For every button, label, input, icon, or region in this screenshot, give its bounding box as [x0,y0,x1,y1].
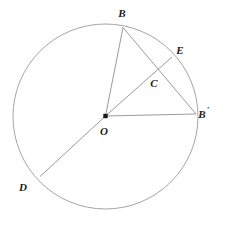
segment-BBprime [123,28,196,115]
center-point-marker [103,114,107,118]
label-point-E: E [175,44,183,56]
geometry-canvas: B E C B ′ O D [0,0,226,225]
segment-OD [40,116,106,177]
label-point-D: D [18,181,27,193]
label-point-B-prime-letter: B [197,108,205,120]
prime-symbol-icon: ′ [207,106,209,115]
label-point-C: C [150,77,158,89]
label-point-O: O [100,125,108,137]
geometry-diagram: B E C B ′ O D [0,0,226,225]
label-point-B-prime: B ′ [197,106,209,120]
label-point-B: B [117,7,125,19]
segment-OBprime [106,114,197,116]
